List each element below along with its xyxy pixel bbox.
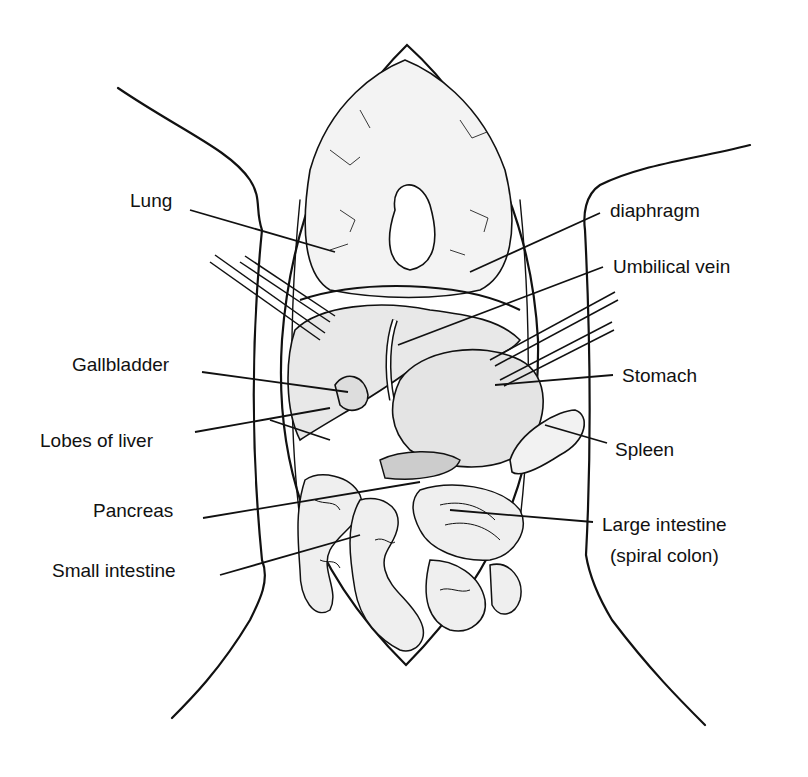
pancreas: [380, 452, 460, 479]
lung-region: [305, 60, 512, 298]
label-spleen: Spleen: [615, 439, 674, 461]
body-outline-left: [118, 88, 265, 718]
fetal-pig-dissection-diagram: Lung Gallbladder Lobes of liver Pancreas…: [0, 0, 808, 777]
label-gallbladder: Gallbladder: [72, 354, 169, 376]
label-large-intestine: Large intestine: [602, 514, 727, 536]
label-lobes-of-liver: Lobes of liver: [40, 430, 153, 452]
label-stomach: Stomach: [622, 365, 697, 387]
intestines: [298, 475, 523, 651]
body-outline-right: [584, 145, 750, 725]
label-lung: Lung: [130, 190, 172, 212]
label-umbilical-vein: Umbilical vein: [613, 256, 730, 278]
label-pancreas: Pancreas: [93, 500, 173, 522]
dissection-illustration: [0, 0, 808, 777]
label-diaphragm: diaphragm: [610, 200, 700, 222]
label-small-intestine: Small intestine: [52, 560, 176, 582]
label-spiral-colon: (spiral colon): [610, 545, 719, 567]
